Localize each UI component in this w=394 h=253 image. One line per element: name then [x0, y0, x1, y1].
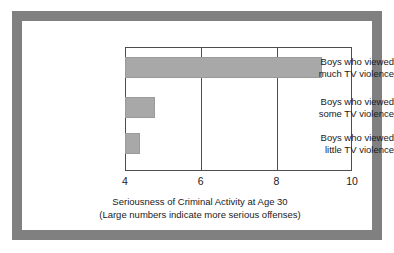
category-label-some-tv-violence: Boys who viewed some TV violence	[274, 96, 394, 119]
category-label-line-1: Boys who viewed	[274, 96, 394, 108]
category-label-much-tv-violence: Boys who viewed much TV violence	[274, 56, 394, 79]
xtick-label-8: 8	[261, 175, 291, 187]
category-label-line-2: much TV violence	[274, 68, 394, 80]
x-axis-title-line-2: (Large numbers indicate more serious off…	[55, 209, 345, 222]
x-axis-title-line-1: Seriousness of Criminal Activity at Age …	[55, 196, 345, 209]
xtick-label-4: 4	[110, 175, 140, 187]
category-label-line-1: Boys who viewed	[274, 132, 394, 144]
category-label-line-2: little TV violence	[274, 144, 394, 156]
category-label-line-2: some TV violence	[274, 108, 394, 120]
bar-some-tv-violence	[125, 97, 155, 118]
xtick-label-10: 10	[337, 175, 367, 187]
category-label-line-1: Boys who viewed	[274, 56, 394, 68]
category-label-little-tv-violence: Boys who viewed little TV violence	[274, 132, 394, 155]
chart-figure: Boys who viewed much TV violence Boys wh…	[0, 0, 394, 253]
xtick-label-6: 6	[186, 175, 216, 187]
bar-little-tv-violence	[125, 133, 140, 154]
x-axis-title: Seriousness of Criminal Activity at Age …	[55, 196, 345, 221]
